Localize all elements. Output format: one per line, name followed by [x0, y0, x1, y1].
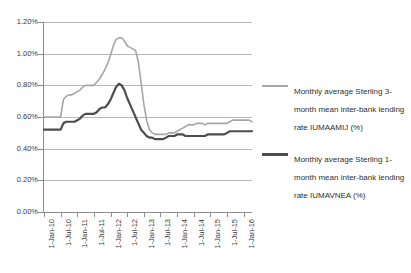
y-axis-tick-label: 0.60% [2, 113, 38, 121]
x-axis-tick-label: 1-Jul-10 [65, 219, 73, 246]
x-axis-tick [111, 213, 112, 217]
x-axis-line [44, 212, 252, 213]
x-axis-tick [177, 213, 178, 217]
x-axis-tick [160, 213, 161, 217]
x-axis-tick [127, 213, 128, 217]
x-axis-tick [144, 213, 145, 217]
x-axis-tick [210, 213, 211, 217]
x-axis-tick-label: 1-Jan-15 [214, 219, 222, 249]
x-axis-tick-label: 1-Jul-12 [131, 219, 139, 246]
x-axis-tick-label: 1-Jul-13 [164, 219, 172, 246]
legend-label-iumavnea: Monthly average Sterling 1-month mean in… [294, 155, 404, 200]
x-axis-tick [61, 213, 62, 217]
legend-item-iumaamij: Monthly average Sterling 3-month mean in… [262, 80, 408, 134]
x-axis-tick [94, 213, 95, 217]
y-axis-tick-label: 0.40% [2, 145, 38, 153]
series-paths [44, 22, 252, 212]
x-axis-tick-label: 1-Jul-15 [231, 219, 239, 246]
x-axis-tick [227, 213, 228, 217]
x-axis-tick-label: 1-Jan-13 [148, 219, 156, 249]
legend: Monthly average Sterling 3-month mean in… [262, 80, 408, 216]
y-axis-tick-label: 1.20% [2, 18, 38, 26]
y-axis-tick [38, 149, 43, 150]
x-axis-tick-label: 1-Jan-11 [81, 219, 89, 248]
y-axis-tick [38, 54, 43, 55]
legend-swatch-iumavnea [262, 153, 288, 156]
y-axis-tick-label: 0.20% [2, 176, 38, 184]
y-axis-tick [38, 85, 43, 86]
legend-swatch-iumaamij [262, 85, 288, 87]
plot-area [44, 22, 252, 212]
y-axis-labels: 0.00%0.20%0.40%0.60%0.80%1.00%1.20% [0, 0, 38, 273]
x-axis-tick-label: 1-Jan-12 [115, 219, 123, 249]
legend-item-iumavnea: Monthly average Sterling 1-month mean in… [262, 148, 408, 202]
x-axis-tick-label: 1-Jan-16 [248, 219, 256, 249]
x-axis-tick-label: 1-Jan-10 [48, 219, 56, 249]
x-axis-tick-label: 1-Jan-14 [181, 219, 189, 249]
y-axis-tick-label: 1.00% [2, 50, 38, 58]
y-axis-tick-label: 0.00% [2, 208, 38, 216]
series-line-iumaamij [44, 38, 252, 135]
y-axis-tick [38, 212, 43, 213]
y-axis-tick [38, 180, 43, 181]
legend-label-iumaamij: Monthly average Sterling 3-month mean in… [294, 87, 404, 132]
y-axis-tick [38, 22, 43, 23]
x-axis-tick [77, 213, 78, 217]
y-axis-tick-label: 0.80% [2, 81, 38, 89]
y-axis-tick [38, 117, 43, 118]
x-axis-tick [244, 213, 245, 217]
x-axis-tick [194, 213, 195, 217]
x-axis-tick-label: 1-Jul-11 [98, 219, 106, 246]
line-chart: 0.00%0.20%0.40%0.60%0.80%1.00%1.20% 1-Ja… [0, 0, 411, 273]
x-axis-tick-label: 1-Jul-14 [198, 219, 206, 246]
x-axis-tick [44, 213, 45, 217]
